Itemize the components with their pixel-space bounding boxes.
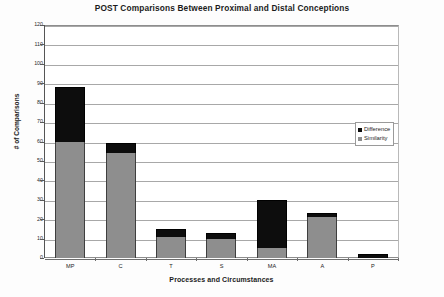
- legend-item-label: Difference: [364, 127, 390, 133]
- y-axis-tick-mark: [40, 161, 44, 162]
- bar-segment-difference[interactable]: [257, 200, 287, 249]
- legend-swatch-icon: [358, 137, 362, 141]
- legend-item-label: Similarity: [364, 136, 388, 142]
- y-axis-tick-label: 20: [13, 217, 43, 222]
- bar-stack[interactable]: [206, 233, 236, 258]
- y-axis-title: # of Comparisons: [13, 62, 20, 182]
- y-axis-tick-label: 0: [13, 255, 43, 260]
- y-axis-tick-mark: [40, 258, 44, 259]
- bar-segment-similarity[interactable]: [206, 239, 236, 258]
- y-axis-tick-mark: [40, 103, 44, 104]
- bar-segment-similarity[interactable]: [307, 217, 337, 258]
- bar-group: [45, 25, 95, 258]
- y-axis-tick-mark: [40, 83, 44, 84]
- x-axis-tick-label: MA: [250, 263, 294, 269]
- bar-segment-similarity[interactable]: [156, 237, 186, 258]
- y-axis-tick-label: 120: [13, 22, 43, 27]
- x-axis-tick-mark: [247, 258, 248, 261]
- x-axis-tick-mark: [196, 258, 197, 261]
- x-axis-tick-mark: [398, 258, 399, 261]
- chart-page: POST Comparisons Between Proximal and Di…: [0, 0, 444, 297]
- y-axis-tick-mark: [40, 239, 44, 240]
- y-axis-tick-mark: [40, 25, 44, 26]
- y-axis-tick-mark: [40, 180, 44, 181]
- y-axis-tick-mark: [40, 64, 44, 65]
- bar-segment-similarity[interactable]: [55, 142, 85, 259]
- gridline: [45, 259, 398, 260]
- x-axis-tick-label: P: [351, 263, 395, 269]
- bar-group: [196, 25, 246, 258]
- chart-legend: DifferenceSimilarity: [355, 122, 394, 146]
- x-axis-tick-label: S: [200, 263, 244, 269]
- bar-segment-similarity[interactable]: [106, 153, 136, 258]
- bar-series-group: [45, 25, 398, 258]
- bar-stack[interactable]: [156, 229, 186, 258]
- bar-group: [297, 25, 347, 258]
- chart-title: POST Comparisons Between Proximal and Di…: [0, 3, 444, 13]
- x-axis-tick-mark: [146, 258, 147, 261]
- y-axis-tick-mark: [40, 122, 44, 123]
- bar-stack[interactable]: [257, 200, 287, 258]
- x-axis-tick-mark: [348, 258, 349, 261]
- bar-group: [247, 25, 297, 258]
- legend-swatch-icon: [358, 128, 362, 132]
- bar-segment-difference[interactable]: [358, 254, 388, 258]
- x-axis-tick-label: A: [300, 263, 344, 269]
- bar-group: [95, 25, 145, 258]
- bar-stack[interactable]: [358, 254, 388, 258]
- bar-segment-difference[interactable]: [55, 87, 85, 141]
- bar-segment-difference[interactable]: [106, 143, 136, 153]
- bar-stack[interactable]: [307, 213, 337, 258]
- x-axis-title: Processes and Circumstances: [44, 276, 399, 283]
- bar-stack[interactable]: [55, 87, 85, 258]
- y-axis-tick-mark: [40, 142, 44, 143]
- y-axis-tick-mark: [40, 44, 44, 45]
- bar-segment-similarity[interactable]: [257, 248, 287, 258]
- x-axis-tick-mark: [297, 258, 298, 261]
- y-axis-tick-mark: [40, 219, 44, 220]
- bar-stack[interactable]: [106, 143, 136, 258]
- bar-group: [146, 25, 196, 258]
- y-axis-tick-label: 30: [13, 197, 43, 202]
- legend-item[interactable]: Difference: [358, 125, 390, 134]
- x-axis-tick-label: C: [99, 263, 143, 269]
- y-axis-tick-label: 110: [13, 42, 43, 47]
- bar-segment-difference[interactable]: [156, 229, 186, 237]
- y-axis-tick-mark: [40, 200, 44, 201]
- x-axis-tick-label: MP: [48, 263, 92, 269]
- x-axis-tick-label: T: [149, 263, 193, 269]
- x-axis-tick-mark: [95, 258, 96, 261]
- y-axis-tick-label: 10: [13, 236, 43, 241]
- legend-item[interactable]: Similarity: [358, 134, 390, 143]
